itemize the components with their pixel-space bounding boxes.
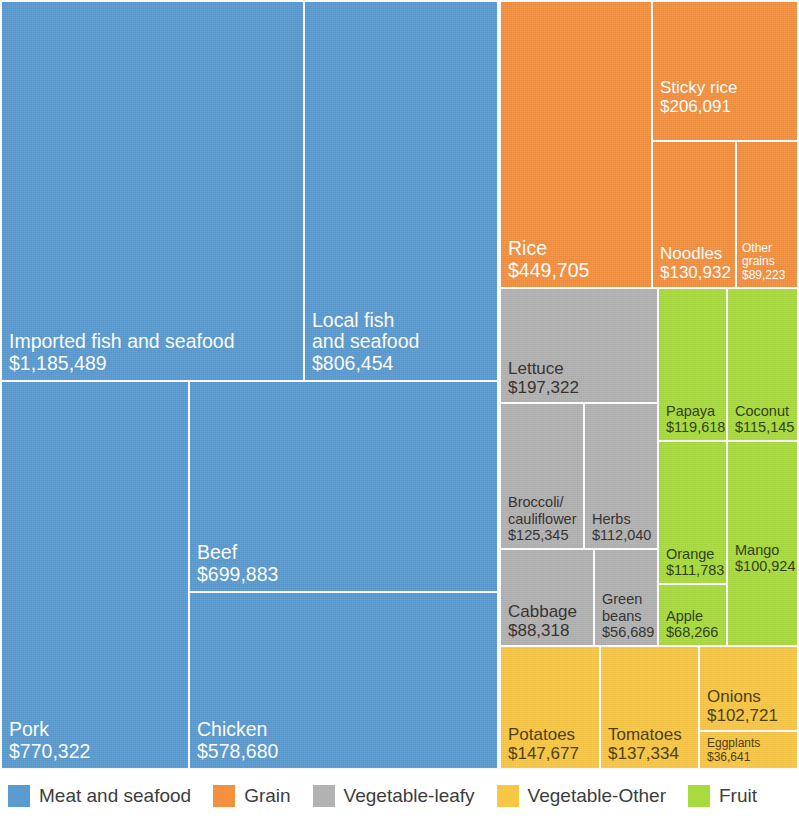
cell-label: Sticky rice	[660, 78, 794, 97]
chart-legend: Meat and seafood Grain Vegetable-leafy V…	[0, 770, 799, 822]
cell-label: Coconut	[735, 403, 794, 419]
legend-swatch-icon	[688, 785, 710, 807]
cell-value: $68,266	[666, 624, 723, 640]
legend-swatch-icon	[213, 785, 235, 807]
cell-label: Broccoli/ cauliflower	[508, 494, 580, 526]
cell-label: Herbs	[592, 511, 654, 527]
treemap-cell-apple[interactable]: Apple $68,266	[657, 583, 728, 647]
cell-value: $100,924	[735, 558, 794, 574]
treemap-cell-onions[interactable]: Onions $102,721	[698, 645, 799, 732]
treemap-cell-coconut[interactable]: Coconut $115,145	[726, 287, 799, 442]
legend-swatch-icon	[497, 785, 519, 807]
treemap-cell-lettuce[interactable]: Lettuce $197,322	[499, 287, 659, 404]
cell-value: $137,334	[608, 744, 695, 763]
cell-value: $197,322	[508, 378, 654, 397]
cell-value: $449,705	[508, 260, 648, 282]
cell-label: Other grains	[742, 242, 794, 269]
legend-item-fruit[interactable]: Fruit	[688, 785, 757, 807]
cell-value: $102,721	[707, 706, 794, 725]
legend-item-vegetable-other[interactable]: Vegetable-Other	[497, 785, 666, 807]
cell-value: $36,641	[707, 751, 794, 764]
cell-value: $206,091	[660, 97, 794, 116]
cell-value: $130,932	[660, 263, 732, 282]
treemap-cell-noodles[interactable]: Noodles $130,932	[651, 140, 737, 289]
cell-value: $119,618	[666, 419, 723, 435]
treemap-cell-herbs[interactable]: Herbs $112,040	[583, 402, 659, 550]
cell-label: Local fish and seafood	[312, 310, 494, 354]
cell-value: $699,883	[197, 564, 494, 586]
treemap-cell-broccoli-cauliflower[interactable]: Broccoli/ cauliflower $125,345	[499, 402, 585, 550]
treemap-cell-orange[interactable]: Orange $111,783	[657, 440, 728, 585]
treemap-cell-other-grains[interactable]: Other grains $89,223	[735, 140, 799, 289]
cell-value: $578,680	[197, 741, 494, 763]
legend-label: Vegetable-leafy	[344, 785, 475, 807]
treemap-cell-cabbage[interactable]: Cabbage $88,318	[499, 548, 595, 647]
cell-value: $1,185,489	[9, 353, 300, 375]
legend-label: Grain	[244, 785, 290, 807]
legend-item-grain[interactable]: Grain	[213, 785, 290, 807]
treemap-chart: Imported fish and seafood $1,185,489 Loc…	[0, 0, 799, 822]
legend-label: Meat and seafood	[39, 785, 191, 807]
cell-value: $125,345	[508, 527, 580, 543]
treemap-cell-green-beans[interactable]: Green beans $56,689	[593, 548, 659, 647]
cell-value: $111,783	[666, 562, 723, 578]
treemap-cell-potatoes[interactable]: Potatoes $147,677	[499, 645, 601, 770]
legend-swatch-icon	[313, 785, 335, 807]
legend-item-meat-and-seafood[interactable]: Meat and seafood	[8, 785, 191, 807]
treemap-cell-pork[interactable]: Pork $770,322	[0, 380, 190, 770]
treemap-cell-papaya[interactable]: Papaya $119,618	[657, 287, 728, 442]
cell-value: $88,318	[508, 621, 590, 640]
cell-label: Chicken	[197, 719, 494, 741]
cell-label: Orange	[666, 546, 723, 562]
treemap-cell-chicken[interactable]: Chicken $578,680	[188, 591, 499, 770]
cell-label: Noodles	[660, 244, 732, 263]
cell-label: Papaya	[666, 403, 723, 419]
cell-label: Rice	[508, 238, 648, 260]
cell-label: Mango	[735, 542, 794, 558]
treemap-plot-area: Imported fish and seafood $1,185,489 Loc…	[0, 0, 799, 770]
treemap-cell-imported-fish[interactable]: Imported fish and seafood $1,185,489	[0, 0, 305, 382]
legend-label: Fruit	[719, 785, 757, 807]
cell-label: Tomatoes	[608, 725, 695, 744]
cell-value: $56,689	[602, 624, 654, 640]
cell-value: $89,223	[742, 269, 794, 282]
cell-label: Eggplants	[707, 737, 794, 750]
cell-label: Onions	[707, 687, 794, 706]
cell-value: $112,040	[592, 527, 654, 543]
cell-label: Apple	[666, 608, 723, 624]
treemap-cell-tomatoes[interactable]: Tomatoes $137,334	[599, 645, 700, 770]
cell-label: Potatoes	[508, 725, 596, 744]
treemap-cell-beef[interactable]: Beef $699,883	[188, 380, 499, 593]
cell-label: Beef	[197, 542, 494, 564]
cell-label: Pork	[9, 719, 185, 741]
treemap-cell-mango[interactable]: Mango $100,924	[726, 440, 799, 647]
treemap-cell-local-fish[interactable]: Local fish and seafood $806,454	[303, 0, 499, 382]
legend-swatch-icon	[8, 785, 30, 807]
legend-label: Vegetable-Other	[528, 785, 666, 807]
cell-label: Green beans	[602, 591, 654, 623]
treemap-cell-sticky-rice[interactable]: Sticky rice $206,091	[651, 0, 799, 142]
legend-item-vegetable-leafy[interactable]: Vegetable-leafy	[313, 785, 475, 807]
cell-label: Lettuce	[508, 359, 654, 378]
cell-value: $806,454	[312, 353, 494, 375]
treemap-cell-rice[interactable]: Rice $449,705	[499, 0, 653, 289]
cell-value: $115,145	[735, 419, 794, 435]
cell-label: Cabbage	[508, 602, 590, 621]
cell-value: $147,677	[508, 744, 596, 763]
cell-label: Imported fish and seafood	[9, 331, 300, 353]
treemap-cell-eggplants[interactable]: Eggplants $36,641	[698, 730, 799, 770]
cell-value: $770,322	[9, 741, 185, 763]
